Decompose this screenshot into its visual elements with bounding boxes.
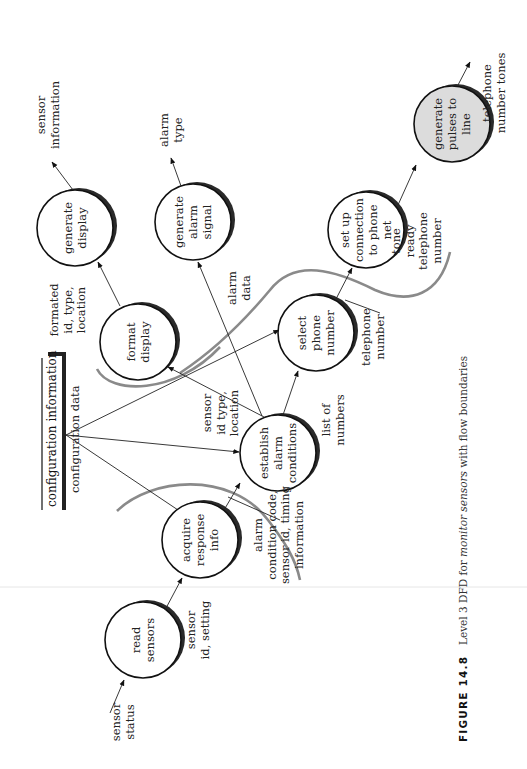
flow-label-telephone-number-tones: telephonenumber tones: [480, 53, 508, 134]
process-label: formatdisplay: [124, 321, 152, 363]
dfd-diagram: configuration information configuration …: [0, 0, 527, 769]
flow-label-sensor-status: sensorstatus: [109, 702, 137, 741]
flow-label-sensor-id-setting: sensorid, setting: [184, 600, 212, 659]
figure-caption-text: Level 3 DFD for monitor sensors with flo…: [457, 356, 469, 645]
flow-label-sensor-information: sensorinformation: [34, 80, 62, 149]
flow-label-alarm-data: alarmdata: [225, 271, 253, 305]
figure-number: FIGURE 14.8: [457, 656, 469, 742]
process-format-display: formatdisplay: [100, 302, 180, 380]
flow-label-list-of-numbers: list ofnumbers: [319, 394, 347, 445]
flow-label-configuration-data: configuration data: [68, 385, 82, 493]
figure-caption: FIGURE 14.8 Level 3 DFD for monitor sens…: [457, 356, 469, 742]
process-generate-display: generatedisplay: [37, 188, 117, 266]
process-generate-alarm-signal: generatealarmsignal: [155, 182, 235, 260]
data-store-label: configuration information: [45, 350, 59, 507]
flow-label-telephone-number: telephonenumber: [359, 308, 387, 366]
flow-label-alarm-condition: alarmcondition code,sensor id, timinginf…: [251, 485, 306, 584]
flow-label-formated-id: formatedid, type,location: [47, 283, 88, 337]
flow-label-sensor-id-type-location: sensorid type,location: [200, 389, 241, 436]
process-select-phone-number: selectphonenumber: [278, 293, 358, 371]
process-establish-alarm-conditions: establishalarmconditions: [240, 413, 320, 491]
process-read-sensors: readsensors: [105, 600, 185, 678]
data-store-configuration-information: configuration information: [42, 350, 64, 510]
flow-label-alarm-type: alarmtype: [157, 113, 185, 147]
process-label: generatedisplay: [61, 202, 89, 254]
process-acquire-response-info: acquireresponseinfo: [162, 500, 242, 578]
process-label: selectphonenumber: [295, 310, 337, 356]
